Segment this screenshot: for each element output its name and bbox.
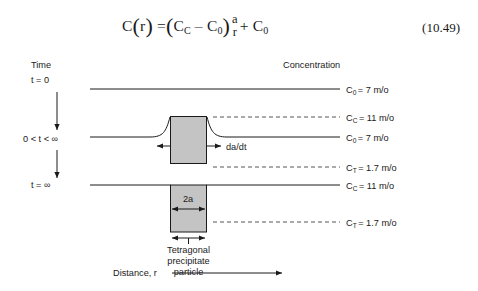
time-axis-header: Time [31,60,51,70]
equation-expression: C(r) =(CC – C0)ar+ C0 [122,14,268,40]
equation-term-c0-outer-subscript: 0 [263,25,268,36]
particle-caption-line-3: particle [174,267,204,277]
equation-term-c0-outer: C [253,17,264,34]
concentration-label-cc-middle: CC= 11 m/o [346,113,394,124]
profile-curve-right-t-middle [207,117,340,137]
equation-block: C(r) =(CC – C0)ar+ C0 (10.49) [0,8,478,54]
precipitate-particle-t-middle [171,117,207,164]
growth-rate-label: da/dt [226,142,247,152]
equation-term-cc: C [174,17,185,34]
particle-caption-line-1: Tetragonal [167,245,210,255]
row-label-t0: t = 0 [31,75,49,85]
equation-plus-sign: + [240,17,249,34]
distance-axis-label: Distance, r [113,268,157,278]
concentration-label-ct-middle: CT= 1.7 m/o [346,163,397,174]
equation-fraction: ar [232,13,238,39]
equation-lhs-symbol: C [122,17,133,34]
particle-width-label: 2a [183,194,194,204]
profile-curve-left-t-middle [90,117,170,137]
equation-term-cc-subscript: C [184,25,191,36]
equation-number: (10.49) [422,20,460,36]
concentration-profile-diagram: Time Concentration t = 0 0 < t < ∞ t = ∞… [0,54,478,291]
equation-minus-sign: – [195,17,203,34]
concentration-label-c0-top: C0= 7 m/o [346,85,389,96]
row-label-t-infinity: t = ∞ [31,180,51,190]
row-label-t-middle: 0 < t < ∞ [23,134,58,144]
concentration-axis-header: Concentration [283,60,340,70]
particle-caption-line-2: precipitate [167,256,209,266]
concentration-label-ct-bottom: CT= 1.7 m/o [346,218,397,229]
equation-fraction-denominator: r [232,26,238,39]
equation-equals-sign: = [157,17,166,34]
concentration-label-c0-middle: C0= 7 m/o [346,133,389,144]
concentration-label-cc-bottom: CC= 11 m/o [346,181,394,192]
equation-term-c0-inner: C [207,17,218,34]
profile-line-t-infinity [90,185,340,232]
